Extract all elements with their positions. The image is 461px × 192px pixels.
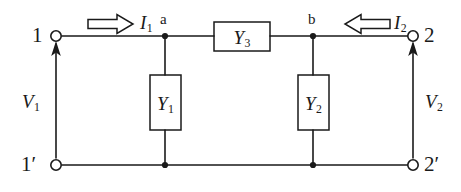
- component-label-y2-symbol: Y: [305, 93, 316, 114]
- current-label-i2-subscript: 2: [400, 22, 406, 35]
- junction-dot-node-b-bottom: [310, 162, 316, 168]
- voltage-label-v1-symbol: V: [22, 91, 34, 112]
- terminal-label-1-prime: 1′: [21, 154, 36, 175]
- terminal-circle-2: [408, 31, 418, 41]
- voltage-label-v2-subscript: 2: [437, 101, 443, 114]
- node-label-b: b: [308, 12, 316, 27]
- component-label-y3: Y3: [214, 27, 270, 51]
- component-label-y1-symbol: Y: [157, 93, 168, 114]
- current-label-i1: I1: [140, 13, 153, 35]
- circuit-diagram: 1 2 1′ 2′ a b I1 I2 V1 V2 Y1 Y2 Y3: [0, 0, 461, 192]
- current-label-i1-subscript: 1: [146, 22, 152, 35]
- terminal-circle-1: [51, 31, 61, 41]
- junction-dot-node-a-bottom: [162, 162, 168, 168]
- terminal-label-1: 1: [32, 25, 43, 46]
- terminal-circle-1-prime: [51, 160, 61, 170]
- component-label-y3-subscript: 3: [244, 37, 250, 50]
- junction-dot-node-a-top: [162, 33, 168, 39]
- component-label-y2: Y2: [298, 93, 329, 117]
- component-label-y1-subscript: 1: [168, 103, 174, 116]
- voltage-label-v1: V1: [22, 92, 40, 114]
- component-label-y3-symbol: Y: [234, 27, 245, 48]
- voltage-label-v2-symbol: V: [425, 91, 437, 112]
- current-arrow-i2-hollow-left: [345, 15, 390, 34]
- component-label-y2-subscript: 2: [316, 103, 322, 116]
- terminal-circle-2-prime: [408, 160, 418, 170]
- terminal-label-2-prime: 2′: [424, 154, 439, 175]
- component-label-y1: Y1: [150, 93, 181, 117]
- current-label-i2: I2: [394, 13, 407, 35]
- current-arrow-i1-hollow-right: [88, 15, 133, 34]
- voltage-label-v1-subscript: 1: [34, 101, 40, 114]
- junction-dot-node-b-top: [310, 33, 316, 39]
- node-label-a: a: [160, 12, 167, 27]
- voltage-label-v2: V2: [425, 92, 443, 114]
- terminal-label-2: 2: [424, 25, 435, 46]
